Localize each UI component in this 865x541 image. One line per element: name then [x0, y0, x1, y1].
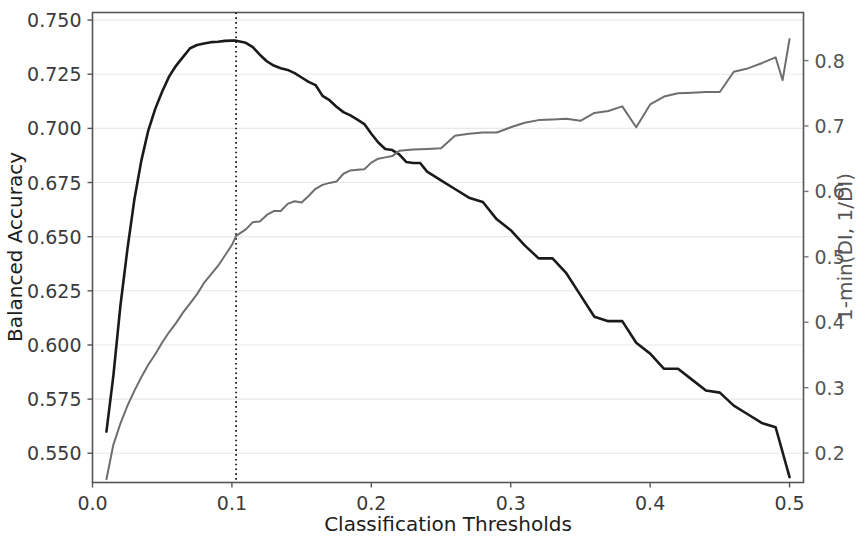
x-tick-label: 0.2 — [356, 492, 386, 514]
y2-tick-label: 0.7 — [815, 115, 845, 137]
y-tick-label: 0.700 — [27, 117, 81, 139]
series-line — [106, 41, 789, 477]
x-tick-label: 0.5 — [774, 492, 804, 514]
chart-canvas: 0.5500.5750.6000.6250.6500.6750.7000.725… — [0, 0, 865, 541]
x-tick-label: 0.0 — [77, 492, 107, 514]
x-tick-label: 0.1 — [217, 492, 247, 514]
y-tick-label: 0.675 — [27, 172, 81, 194]
chart-figure: 0.5500.5750.6000.6250.6500.6750.7000.725… — [0, 0, 865, 541]
tick-marks — [88, 20, 809, 487]
y2-tick-label: 0.3 — [815, 377, 845, 399]
y-tick-label: 0.650 — [27, 226, 81, 248]
series-line — [106, 39, 789, 479]
y2-tick-label: 0.2 — [815, 442, 845, 464]
gridlines — [93, 20, 804, 453]
y-axis-tick-labels: 0.5500.5750.6000.6250.6500.6750.7000.725… — [27, 9, 81, 464]
x-tick-label: 0.3 — [496, 492, 526, 514]
data-series-layer — [106, 39, 789, 479]
y-tick-label: 0.575 — [27, 388, 81, 410]
y2-tick-label: 0.8 — [815, 50, 845, 72]
y-tick-label: 0.625 — [27, 280, 81, 302]
y-tick-label: 0.750 — [27, 9, 81, 31]
y-tick-label: 0.600 — [27, 334, 81, 356]
y2-axis-title: 1-min(DI, 1/DI) — [833, 173, 857, 321]
x-axis-tick-labels: 0.00.10.20.30.40.5 — [77, 492, 804, 514]
x-axis-title: Classification Thresholds — [324, 512, 572, 536]
x-tick-label: 0.4 — [635, 492, 665, 514]
axes-frame — [93, 13, 804, 483]
y-tick-label: 0.550 — [27, 442, 81, 464]
y-axis-title: Balanced Accuracy — [3, 152, 27, 342]
y-tick-label: 0.725 — [27, 63, 81, 85]
